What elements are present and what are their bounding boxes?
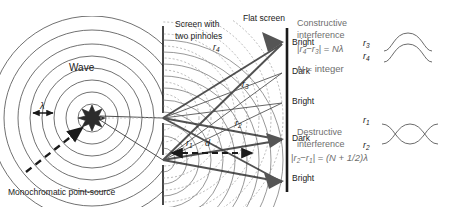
destructive-formula: |r2−r1| = (N + 1/2)λ xyxy=(291,153,368,164)
constructive-wave-label-bottom: r4 xyxy=(363,51,370,62)
diagram-vector-layer xyxy=(0,0,449,207)
destructive-title-line2: interference xyxy=(297,139,345,149)
destructive-wave-pair xyxy=(382,124,438,144)
fringe-label-5: Bright xyxy=(292,174,314,184)
wave-label: Wave xyxy=(69,62,94,74)
barrier-caption-line2: two pinholes xyxy=(175,32,222,42)
flat-screen-caption: Flat screen xyxy=(243,14,285,24)
constructive-note: N = integer xyxy=(297,64,344,75)
ray-label-r4: r4 xyxy=(213,42,220,53)
slit-separation-label: d xyxy=(205,138,210,148)
constructive-wave-pair xyxy=(384,33,432,62)
barrier-caption-line1: Screen with xyxy=(175,20,219,30)
constructive-formula: |r4−r3| = Nλ xyxy=(297,44,343,55)
constructive-wave-label-top: r3 xyxy=(363,38,370,49)
destructive-title-line1: Destructive xyxy=(297,127,342,137)
fringe-label-3: Bright xyxy=(292,97,314,107)
destructive-wave-label-bottom: r2 xyxy=(363,140,370,151)
point-source-caption: Monochromatic point-source xyxy=(8,188,115,198)
diagram-canvas: Screen with two pinholes Flat screen Wav… xyxy=(0,0,449,207)
ray-label-r2: r2 xyxy=(235,118,242,129)
interference-ray-paths xyxy=(163,44,282,182)
destructive-wave-label-top: r1 xyxy=(363,115,370,126)
ray-label-r3: r3 xyxy=(242,79,249,90)
interference-ray-paths-thin xyxy=(163,73,282,160)
wavelength-label: λ xyxy=(40,101,44,111)
ray-label-r1: r1 xyxy=(186,138,193,149)
constructive-title-line2: interference xyxy=(297,30,345,40)
constructive-title-line1: Constructive xyxy=(297,18,347,28)
